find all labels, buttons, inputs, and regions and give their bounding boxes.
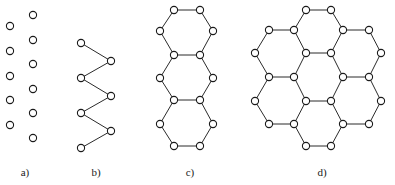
graph-edge bbox=[162, 13, 172, 28]
panel-a: a) bbox=[6, 11, 36, 179]
graph-edge bbox=[84, 80, 108, 94]
graph-vertex-node bbox=[196, 6, 203, 13]
graph-vertex-node bbox=[196, 142, 203, 149]
graph-vertex-node bbox=[6, 72, 13, 79]
graph-vertex-node bbox=[251, 97, 258, 104]
panel-d-nodes bbox=[251, 6, 384, 149]
graph-vertex-node bbox=[265, 120, 272, 127]
graph-edge bbox=[296, 104, 305, 121]
graph-vertex-node bbox=[302, 6, 309, 13]
graph-vertex-node bbox=[29, 109, 36, 116]
graph-edge bbox=[296, 80, 305, 98]
graph-vertex-node bbox=[327, 142, 334, 149]
graph-vertex-node bbox=[290, 120, 297, 127]
graph-vertex-node bbox=[290, 26, 297, 33]
graph-edge bbox=[84, 45, 108, 59]
graph-vertex-node bbox=[327, 6, 334, 13]
graph-vertex-node bbox=[339, 26, 346, 33]
figure-container: a)b)c)d) bbox=[0, 0, 395, 185]
graph-vertex-node bbox=[377, 97, 384, 104]
graph-vertex-node bbox=[29, 11, 36, 18]
graph-vertex-node bbox=[302, 49, 309, 56]
graph-vertex-node bbox=[6, 96, 13, 103]
graph-vertex-node bbox=[196, 51, 203, 58]
graph-edge bbox=[371, 80, 380, 98]
panel-c-edges bbox=[162, 10, 211, 146]
graph-vertex-node bbox=[209, 120, 216, 127]
graph-edge bbox=[333, 56, 342, 74]
graph-vertex-node bbox=[170, 96, 177, 103]
graph-edge bbox=[202, 103, 212, 121]
graph-edge bbox=[202, 34, 212, 52]
graph-vertex-node bbox=[77, 39, 84, 46]
graph-vertex-node bbox=[77, 144, 84, 151]
graph-vertex-node bbox=[77, 109, 84, 116]
graph-edge bbox=[257, 56, 267, 74]
graph-vertex-node bbox=[365, 73, 372, 80]
graph-vertex-node bbox=[170, 51, 177, 58]
panel-c-label: c) bbox=[186, 166, 195, 179]
graph-vertex-node bbox=[265, 73, 272, 80]
graph-figure-svg: a)b)c)d) bbox=[0, 0, 395, 185]
graph-vertex-node bbox=[209, 74, 216, 81]
graph-vertex-node bbox=[29, 36, 36, 43]
graph-vertex-node bbox=[290, 73, 297, 80]
graph-edge bbox=[162, 81, 172, 97]
graph-edge bbox=[371, 56, 380, 74]
graph-vertex-node bbox=[339, 120, 346, 127]
graph-vertex-node bbox=[6, 121, 13, 128]
panels-root: a)b)c)d) bbox=[6, 6, 384, 179]
panel-d-edges bbox=[257, 10, 380, 146]
panel-c: c) bbox=[156, 6, 216, 179]
graph-vertex-node bbox=[365, 26, 372, 33]
graph-edge bbox=[333, 33, 342, 50]
graph-edge bbox=[257, 80, 267, 98]
graph-edge bbox=[162, 58, 172, 75]
graph-edge bbox=[371, 33, 380, 50]
graph-vertex-node bbox=[365, 120, 372, 127]
panel-b-nodes bbox=[77, 39, 114, 151]
graph-vertex-node bbox=[339, 73, 346, 80]
graph-edge bbox=[371, 104, 380, 121]
graph-edge bbox=[257, 33, 267, 50]
panel-a-label: a) bbox=[21, 166, 30, 179]
panel-b-edges bbox=[84, 45, 108, 146]
graph-vertex-node bbox=[170, 142, 177, 149]
panel-c-nodes bbox=[156, 6, 216, 149]
panel-d-label: d) bbox=[317, 166, 327, 179]
graph-vertex-node bbox=[209, 27, 216, 34]
graph-edge bbox=[333, 127, 342, 143]
graph-vertex-node bbox=[6, 22, 13, 29]
graph-vertex-node bbox=[29, 60, 36, 67]
graph-edge bbox=[257, 104, 267, 121]
graph-vertex-node bbox=[156, 120, 163, 127]
graph-edge bbox=[296, 56, 305, 74]
graph-vertex-node bbox=[6, 47, 13, 54]
graph-edge bbox=[162, 127, 172, 143]
graph-vertex-node bbox=[302, 142, 309, 149]
graph-edge bbox=[162, 34, 172, 52]
graph-vertex-node bbox=[107, 57, 114, 64]
graph-vertex-node bbox=[327, 49, 334, 56]
panel-d: d) bbox=[251, 6, 384, 179]
graph-vertex-node bbox=[107, 92, 114, 99]
panel-b: b) bbox=[77, 39, 114, 179]
graph-edge bbox=[202, 127, 211, 143]
panel-a-nodes bbox=[6, 11, 36, 141]
graph-vertex-node bbox=[77, 74, 84, 81]
graph-edge bbox=[333, 13, 341, 27]
graph-edge bbox=[296, 13, 304, 27]
graph-edge bbox=[333, 80, 342, 98]
graph-edge bbox=[162, 103, 172, 121]
graph-edge bbox=[84, 98, 108, 111]
graph-vertex-node bbox=[29, 134, 36, 141]
graph-vertex-node bbox=[377, 49, 384, 56]
graph-vertex-node bbox=[156, 74, 163, 81]
graph-vertex-node bbox=[107, 127, 114, 134]
graph-vertex-node bbox=[170, 6, 177, 13]
graph-vertex-node bbox=[29, 85, 36, 92]
graph-vertex-node bbox=[265, 26, 272, 33]
graph-vertex-node bbox=[302, 97, 309, 104]
graph-edge bbox=[333, 104, 342, 121]
graph-vertex-node bbox=[327, 97, 334, 104]
